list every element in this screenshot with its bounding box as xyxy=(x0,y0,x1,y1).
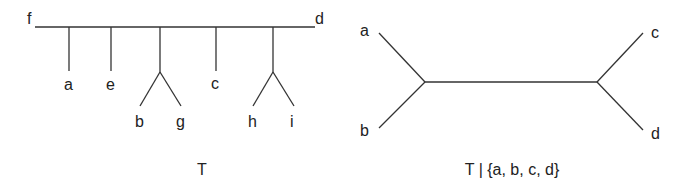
edge-a-right xyxy=(379,33,425,82)
leaf-label-e: e xyxy=(106,76,115,93)
edge-c-right xyxy=(597,33,643,82)
tree-restricted: a b c d T | {a, b, c, d} xyxy=(360,22,660,178)
diagram-canvas: f d a e c b g h i T a b c d T | {a, b, c… xyxy=(0,0,695,193)
edge-b-right xyxy=(379,82,425,128)
edge-h xyxy=(253,72,273,106)
leaf-label-b-left: b xyxy=(135,113,144,130)
leaf-label-c-left: c xyxy=(211,75,219,92)
leaf-label-a-left: a xyxy=(64,76,73,93)
edge-g xyxy=(160,72,181,106)
leaf-label-c-right: c xyxy=(651,24,659,41)
edge-b xyxy=(140,72,160,106)
leaf-label-i: i xyxy=(290,113,294,130)
caption-restricted: T | {a, b, c, d} xyxy=(465,161,560,178)
leaf-label-h: h xyxy=(248,113,257,130)
leaf-label-a-right: a xyxy=(360,22,369,39)
caption-t: T xyxy=(197,161,207,178)
edge-i xyxy=(273,72,294,106)
leaf-label-d-left: d xyxy=(315,10,324,27)
leaf-label-f: f xyxy=(27,10,32,27)
tree-t: f d a e c b g h i T xyxy=(27,10,324,178)
leaf-label-b-right: b xyxy=(360,122,369,139)
leaf-label-d-right: d xyxy=(651,125,660,142)
leaf-label-g: g xyxy=(176,113,185,130)
edge-d-right xyxy=(597,82,643,130)
